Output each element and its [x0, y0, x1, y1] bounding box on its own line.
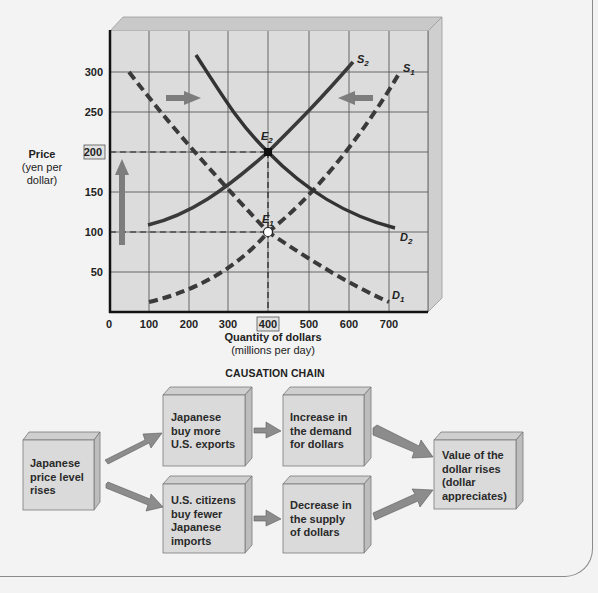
- chart-frame-top: [110, 17, 442, 31]
- svg-text:400: 400: [259, 318, 277, 330]
- arrow-top2-to-end-icon: [373, 425, 433, 458]
- causation-chain-title: CAUSATION CHAIN: [200, 367, 350, 379]
- svg-text:200: 200: [84, 146, 102, 158]
- svg-text:600: 600: [340, 318, 358, 330]
- svg-text:300: 300: [85, 66, 103, 78]
- x-tick-labels: 0 100 200 300 500 600 700: [106, 318, 398, 330]
- equilibrium-e1-marker: [264, 228, 273, 237]
- svg-text:100: 100: [140, 318, 158, 330]
- svg-text:50: 50: [91, 266, 103, 278]
- svg-text:100: 100: [85, 226, 103, 238]
- svg-text:200: 200: [180, 318, 198, 330]
- box-end-text: Value of the dollar rises (dollar apprec…: [442, 449, 507, 503]
- y-tick-labels: 300 250 150 100 50: [85, 66, 103, 278]
- arrow-top1-to-top2-icon: [254, 422, 281, 438]
- svg-text:250: 250: [85, 106, 103, 118]
- arrow-start-to-bottom1-icon: [106, 482, 163, 511]
- svg-text:150: 150: [85, 186, 103, 198]
- causation-arrows: [105, 422, 433, 526]
- arrow-bottom1-to-bottom2-icon: [254, 510, 281, 526]
- box-top1-text: Japanese buy more U.S. exports: [171, 411, 235, 452]
- y-axis-label: Price (yen per dollar): [6, 148, 78, 187]
- box-bottom2-text: Decrease in the supply of dollars: [290, 499, 352, 540]
- svg-text:0: 0: [106, 318, 112, 330]
- box-start-text: Japanese price level rises: [30, 457, 84, 498]
- arrow-start-to-top1-icon: [105, 433, 162, 464]
- plot-area: [110, 31, 428, 312]
- chart-frame-side: [428, 17, 442, 312]
- svg-text:300: 300: [219, 318, 237, 330]
- svg-text:500: 500: [300, 318, 318, 330]
- box-top2-text: Increase in the demand for dollars: [290, 411, 352, 452]
- box-bottom1-text: U.S. citizens buy fewer Japanese imports: [171, 494, 236, 548]
- equilibrium-e2-marker: [264, 148, 272, 156]
- svg-text:700: 700: [380, 318, 398, 330]
- x-axis-label: Quantity of dollars (millions per day): [218, 331, 328, 357]
- arrow-bottom2-to-end-icon: [373, 489, 433, 520]
